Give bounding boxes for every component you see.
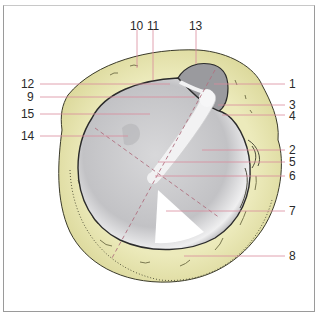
label-14: 14 xyxy=(21,130,34,142)
label-13: 13 xyxy=(189,20,202,32)
label-9: 9 xyxy=(27,91,33,103)
label-8: 8 xyxy=(289,250,295,262)
label-6: 6 xyxy=(289,170,295,182)
tympanic-membrane-illustration xyxy=(0,0,323,321)
label-4: 4 xyxy=(289,110,295,122)
label-11: 11 xyxy=(147,20,159,32)
label-10: 10 xyxy=(130,20,143,32)
label-15: 15 xyxy=(21,108,34,120)
label-5: 5 xyxy=(289,156,295,168)
label-12: 12 xyxy=(21,78,34,90)
label-1: 1 xyxy=(289,78,295,90)
label-7: 7 xyxy=(289,205,295,217)
